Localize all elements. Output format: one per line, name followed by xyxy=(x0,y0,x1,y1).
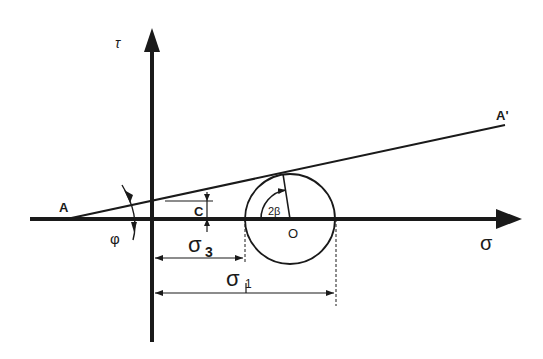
label-point-A-prime: A' xyxy=(496,108,508,123)
svg-text:σ: σ xyxy=(188,232,202,257)
tau-axis xyxy=(144,28,160,342)
svg-text:σ: σ xyxy=(226,266,240,291)
label-sigma3: σ 3 xyxy=(188,232,213,260)
label-point-A: A xyxy=(59,200,69,215)
sigma-axis-arrow-icon xyxy=(496,209,522,229)
svg-text:1: 1 xyxy=(245,277,252,291)
svg-text:3: 3 xyxy=(205,244,213,260)
label-two-beta-angle: 2β xyxy=(268,205,280,217)
label-cohesion-C: C xyxy=(194,204,204,219)
phi-arrow-top-icon xyxy=(124,190,133,203)
radius-line xyxy=(283,174,290,219)
mohr-diagram: A A' O C τ σ φ 2β σ 3 σ 1 xyxy=(0,0,543,359)
sigma1-dimension xyxy=(155,219,336,306)
phi-arrow-bottom-icon xyxy=(131,222,137,232)
label-point-O: O xyxy=(288,226,298,241)
failure-envelope-line xyxy=(62,125,505,220)
cohesion-dimension xyxy=(165,192,213,232)
label-phi-angle: φ xyxy=(110,230,120,247)
label-sigma1: σ 1 xyxy=(226,266,252,291)
label-sigma-axis: σ xyxy=(480,232,493,254)
label-tau-axis: τ xyxy=(115,35,121,51)
tau-axis-arrow-icon xyxy=(144,28,160,52)
